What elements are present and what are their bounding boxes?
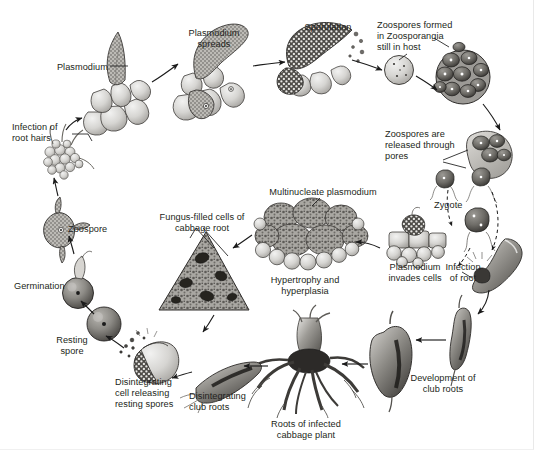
arrow-zoospore-to-roothair	[54, 178, 58, 196]
arrow-section-to-disintegrating-cell	[203, 315, 214, 332]
label-plasmodium: Plasmodium	[44, 62, 108, 73]
label-infection-of-root: Infection of root	[441, 262, 485, 284]
label-plasmodium-spreads: Plasmodium spreads	[177, 28, 251, 50]
stage-cabbage-root-section	[159, 232, 249, 310]
dashed-path-zoospore-right	[492, 192, 498, 250]
label-zoospores-formed: Zoospores formed in Zoosporangia still i…	[377, 20, 473, 54]
label-zoospore: Zoospore	[68, 224, 120, 235]
stage-zygote	[464, 208, 495, 252]
arrow-rootinfection-to-young-club	[478, 290, 489, 314]
label-resting-spore: Resting spore	[50, 335, 94, 357]
label-multinucleate: Multinucleate plasmodium	[258, 187, 388, 198]
label-fungus-filled-cells: Fungus-filled cells of cabbage root	[150, 212, 254, 234]
label-development-of-club: Development of club roots	[399, 373, 487, 395]
arrow-cell-to-resting-spore	[106, 336, 124, 348]
label-zygote: Zygote	[434, 200, 474, 211]
stage-plasmodium-in-cells	[84, 32, 151, 135]
leader-zoospores-formed-a	[399, 54, 407, 60]
stage-club-root-mature	[370, 311, 412, 412]
arrow-cluster-to-release	[483, 104, 500, 130]
arrow-zoosporangium-to-cluster	[416, 76, 437, 90]
stage-sporulating-mass	[277, 22, 364, 96]
label-disintegrating-club: Disintegrating club roots	[189, 391, 265, 413]
stage-disintegrating-cell-art	[120, 328, 179, 383]
arrow-sporulation-to-zoosporangium	[352, 60, 382, 70]
arrow-invadedcells-to-multinucleate	[356, 242, 380, 248]
label-disintegrating-cell: Disintegrating cell releasing resting sp…	[115, 377, 195, 411]
stage-cabbage-root-system	[248, 305, 364, 418]
label-infection-of-root-hairs: Infection of root hairs	[12, 122, 74, 144]
stage-germinating-spore	[63, 251, 94, 308]
leader-pores-b	[443, 162, 466, 168]
leader-multinucleate	[312, 198, 320, 206]
label-hypertrophy: Hypertrophy and hyperplasia	[261, 275, 349, 297]
arrow-spreads-to-sporulation	[253, 62, 285, 66]
arrow-plasmodium-to-spreads	[152, 64, 178, 82]
stage-invaded-cells	[387, 207, 446, 268]
stage-zoosporangium-single	[385, 56, 414, 85]
label-plasmodium-invades: Plasmodium invades cells	[380, 262, 450, 284]
label-zoospores-released: Zoospores are released through pores	[385, 129, 477, 163]
arrow-germination-to-zoospore	[69, 236, 74, 254]
arrow-resting-to-germination	[81, 301, 94, 314]
life-cycle-diagram: Plasmodium Plasmodium spreads Sporulatio…	[0, 0, 534, 450]
label-sporulation: Sporulation	[298, 22, 358, 33]
stage-multinucleate-mass	[254, 198, 368, 270]
arrow-multinucleate-to-section	[233, 235, 252, 248]
leader-root-hairs	[72, 134, 92, 141]
label-roots-of-infected: Roots of infected cabbage plant	[256, 419, 356, 441]
label-germination: Germination	[14, 281, 78, 292]
